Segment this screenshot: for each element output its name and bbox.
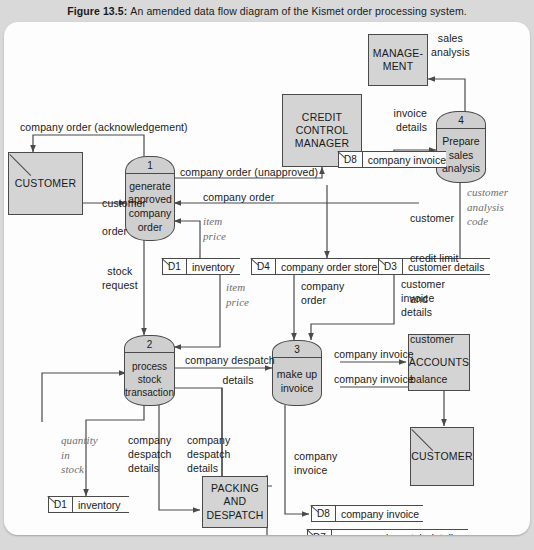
figure-number: Figure 13.5: [67, 5, 127, 17]
entity-management-label: MANAGE- MENT [373, 47, 423, 73]
flow-label-sales-analysis: sales analysis [431, 32, 470, 60]
flow-label-quantity-in-stock: quantity in stock [61, 433, 98, 477]
flow-label-customer-order: customer order [84, 183, 126, 252]
entity-packing-and-despatch[interactable]: PACKING AND DESPATCH [202, 476, 268, 528]
credit-line-1: customer [410, 212, 458, 225]
flow-label-company-invoice-customer: company invoice [334, 373, 414, 387]
entity-packing-and-despatch-label: PACKING AND DESPATCH [206, 482, 263, 521]
flow-label-order-unapproved: company order (unapproved) [180, 166, 318, 180]
process-3-label: make up invoice [276, 358, 318, 405]
credit-line-2: credit limit [410, 252, 458, 265]
data-store-d7-name: company despatch details [332, 530, 468, 535]
flow-label-item-price-top: item price [203, 214, 226, 243]
process-3-number: 3 [273, 341, 321, 358]
flow-label-stock-request: stock request [102, 265, 138, 293]
data-store-d3-code: D3 [379, 259, 403, 274]
process-4-number: 4 [437, 112, 485, 129]
entity-customer-bottom[interactable]: CUSTOMER [410, 427, 474, 486]
flow-label-despatch-details-store: company despatch details [187, 434, 230, 476]
flow-line-sales-analysis [428, 79, 465, 114]
process-4-label: Prepare sales analysis [441, 129, 481, 182]
flow-label-company-order: company order [203, 191, 274, 205]
flow-label-item-price-mid: item price [226, 280, 249, 309]
flow-label-company-invoice-d8: company invoice [294, 450, 337, 478]
data-store-d8-top[interactable]: D8 company invoice [338, 151, 446, 168]
data-store-d1-bottom-code: D1 [49, 497, 73, 512]
data-store-d1-bottom[interactable]: D1 inventory [48, 496, 129, 513]
credit-line-4: customer [410, 333, 458, 346]
data-store-d4[interactable]: D4 company order store [251, 258, 381, 275]
entity-customer-top[interactable]: CUSTOMER [8, 152, 83, 215]
data-store-d8-bottom-code: D8 [312, 506, 336, 521]
process-2-label: process stock transaction [124, 353, 175, 405]
entity-customer-top-label: CUSTOMER [15, 177, 77, 190]
data-store-d1-top[interactable]: D1 inventory [162, 258, 240, 275]
data-store-d7-code: D7 [308, 530, 332, 535]
flow-label-despatch-details-packing: company despatch details [128, 434, 171, 476]
flow-label-company-invoice-accounts: company invoice [334, 348, 414, 362]
data-store-d1-bottom-name: inventory [73, 497, 129, 512]
data-store-d4-code: D4 [252, 259, 276, 274]
flow-label-invoice-details: invoice details [359, 107, 427, 135]
data-store-d8-top-code: D8 [339, 152, 363, 167]
flow-line-item-price-top [174, 221, 200, 260]
process-3[interactable]: 3 make up invoice [272, 340, 322, 406]
flow-label-acknowledgement: company order (acknowledgement) [20, 121, 188, 135]
figure-root: Figure 13.5: An amended data flow diagra… [0, 0, 534, 550]
process-2-number: 2 [125, 336, 174, 353]
process-1-number: 1 [126, 157, 174, 174]
process-4[interactable]: 4 Prepare sales analysis [436, 111, 486, 183]
flow-line-return-to-process2 [42, 373, 126, 422]
data-store-d7[interactable]: D7 company despatch details [307, 529, 468, 535]
flow-label-company-despatch: company despatch [185, 354, 275, 368]
entity-customer-bottom-label: CUSTOMER [411, 450, 473, 463]
figure-caption-text: An amended data flow diagram of the Kism… [130, 5, 466, 17]
process-2[interactable]: 2 process stock transaction [124, 335, 175, 406]
duplicate-corner-icon [9, 153, 35, 179]
data-store-d8-top-name: company invoice [363, 152, 446, 167]
flow-label-customer-order-line2: order [102, 225, 127, 237]
data-store-d8-bottom[interactable]: D8 company invoice [311, 505, 423, 522]
figure-caption: Figure 13.5: An amended data flow diagra… [0, 0, 534, 22]
flow-label-details: details [208, 374, 268, 388]
credit-line-5: balance [410, 373, 458, 386]
flow-line-item-price-mid [174, 275, 220, 347]
flow-label-company-order-d4: company order [301, 280, 344, 308]
entity-credit-control-manager-label: CREDIT CONTROL MANAGER [295, 111, 350, 150]
entity-management[interactable]: MANAGE- MENT [368, 34, 428, 86]
data-store-d4-name: company order store [276, 259, 381, 274]
data-store-d1-top-code: D1 [163, 259, 187, 274]
data-store-d8-bottom-name: company invoice [336, 506, 423, 521]
flow-label-customer-order-line1: customer [102, 197, 146, 209]
data-store-d1-top-name: inventory [187, 259, 240, 274]
diagram-panel: MANAGE- MENT CREDIT CONTROL MANAGER CUST… [4, 22, 530, 535]
flow-line-despatch-to-d7 [267, 475, 305, 535]
flow-label-customer-invoice-details: customer invoice details [401, 278, 445, 320]
flow-label-customer-analysis-code: customer analysis code [467, 185, 508, 229]
